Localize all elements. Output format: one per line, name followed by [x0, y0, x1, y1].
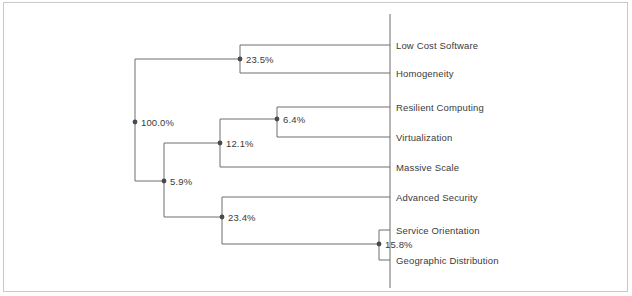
- node-label-root: 100.0%: [141, 118, 174, 128]
- node-marker-cluster-235[interactable]: [238, 57, 243, 62]
- node-label-cluster-234: 23.4%: [228, 213, 256, 223]
- leaf-label-virtualization: Virtualization: [396, 133, 452, 143]
- node-marker-cluster-64[interactable]: [275, 117, 280, 122]
- node-marker-cluster-121[interactable]: [218, 141, 223, 146]
- node-marker-cluster-234[interactable]: [220, 215, 225, 220]
- branch-cluster-59-to-root: [135, 122, 164, 181]
- node-marker-cluster-158[interactable]: [377, 242, 382, 247]
- node-marker-cluster-59[interactable]: [162, 179, 167, 184]
- node-label-cluster-64: 6.4%: [283, 115, 305, 125]
- leaf-label-homogeneity: Homogeneity: [396, 69, 454, 79]
- leaf-label-low-cost-software: Low Cost Software: [396, 41, 478, 51]
- leaf-label-advanced-security: Advanced Security: [396, 193, 478, 203]
- dendrogram-figure: 100.0% 23.5% 5.9% 12.1% 6.4% 23.4% 15.8%…: [0, 0, 632, 296]
- leaf-label-resilient-computing: Resilient Computing: [396, 103, 484, 113]
- node-label-cluster-59: 5.9%: [170, 177, 192, 187]
- node-label-cluster-158: 15.8%: [385, 240, 413, 250]
- leaf-label-geographic-distribution: Geographic Distribution: [396, 256, 499, 266]
- leaf-label-service-orientation: Service Orientation: [396, 226, 480, 236]
- leaf-label-massive-scale: Massive Scale: [396, 163, 459, 173]
- node-label-cluster-121: 12.1%: [226, 139, 254, 149]
- node-marker-root[interactable]: [133, 120, 138, 125]
- node-label-cluster-235: 23.5%: [246, 55, 274, 65]
- dendrogram-canvas: [0, 0, 632, 296]
- branch-cluster-235-to-root: [135, 59, 240, 122]
